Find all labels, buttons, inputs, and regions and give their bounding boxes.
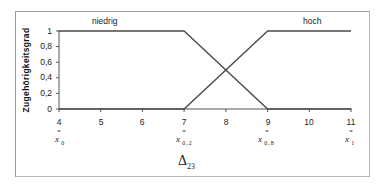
y-tick-label: 0,2 (32, 88, 52, 98)
y-axis-label: Zugehörigkeitsgrad (21, 28, 31, 113)
x-tick-label: 6 (132, 117, 152, 127)
y-tick-label: 0,8 (32, 41, 52, 51)
y-tick-label: 0,4 (32, 72, 52, 82)
y-tick-label: 0 (32, 104, 52, 114)
y-tick-label: 0,6 (32, 57, 52, 67)
annotation-x0: x 0 (55, 134, 65, 146)
x-tick-label: 9 (258, 117, 278, 127)
x-tick-label: 10 (299, 117, 319, 127)
y-tick-label: 1 (32, 26, 52, 36)
x-tick-label: 4 (49, 117, 69, 127)
x-tick-label: 5 (91, 117, 111, 127)
annotation-x08: x 0,8 (258, 134, 275, 146)
x-tick-label: 11 (341, 117, 361, 127)
series-label-niedrig: niedrig (92, 16, 118, 26)
series-niedrig-line (59, 31, 351, 109)
x-tick-label: 7 (174, 117, 194, 127)
delta-symbol: Δ (178, 153, 187, 168)
x-axis-label: Δ23 (178, 153, 195, 171)
series-hoch-line (59, 31, 351, 109)
annotation-x1: x 1 (345, 134, 355, 146)
annotation-x02: x 0,2 (176, 134, 193, 146)
x-tick-label: 8 (216, 117, 236, 127)
series-label-hoch: hoch (303, 16, 321, 26)
